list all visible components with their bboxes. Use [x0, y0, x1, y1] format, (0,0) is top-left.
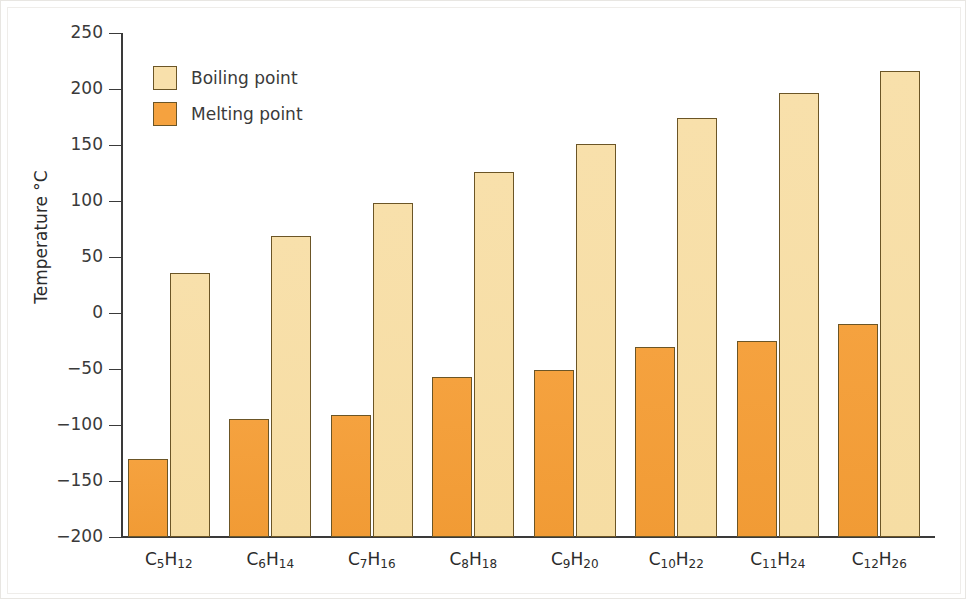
y-tick-label: −150 — [43, 472, 103, 489]
x-tick-label-C11H24: C11H24 — [727, 549, 829, 571]
bar-melting-C10H22[interactable] — [635, 347, 675, 537]
bar-boiling-C12H26[interactable] — [880, 71, 920, 537]
x-tick-label-C8H18: C8H18 — [423, 549, 525, 571]
bar-boiling-C11H24[interactable] — [779, 93, 819, 537]
bar-group — [731, 33, 833, 537]
x-tick-label-C7H16: C7H16 — [321, 549, 423, 571]
bar-boiling-C8H18[interactable] — [474, 172, 514, 537]
legend-label: Boiling point — [191, 70, 298, 87]
x-tick-label-C9H20: C9H20 — [524, 549, 626, 571]
bar-boiling-C9H20[interactable] — [576, 144, 616, 537]
bar-melting-C11H24[interactable] — [737, 341, 777, 537]
y-tick-label: 250 — [43, 24, 103, 41]
bar-melting-C5H12[interactable] — [128, 459, 168, 537]
bar-melting-C8H18[interactable] — [432, 377, 472, 537]
y-tick-label: 0 — [43, 304, 103, 321]
chart-legend: Boiling pointMelting point — [153, 63, 303, 135]
x-tick-label-C12H26: C12H26 — [829, 549, 931, 571]
y-tick-label: −100 — [43, 416, 103, 433]
legend-swatch-melting-icon — [153, 102, 177, 126]
y-tick-label: 50 — [43, 248, 103, 265]
bar-group — [325, 33, 427, 537]
bar-group — [630, 33, 732, 537]
x-tick-label-C5H12: C5H12 — [118, 549, 220, 571]
bar-group — [833, 33, 935, 537]
figure-frame: Temperature °C 250200150100500−50−100−15… — [0, 0, 966, 599]
bar-boiling-C5H12[interactable] — [170, 273, 210, 537]
bar-boiling-C7H16[interactable] — [373, 203, 413, 537]
y-tick-label: 100 — [43, 192, 103, 209]
y-tick-label: −200 — [43, 528, 103, 545]
x-tick-label-C6H14: C6H14 — [220, 549, 322, 571]
legend-item-boiling[interactable]: Boiling point — [153, 63, 303, 93]
bar-boiling-C6H14[interactable] — [271, 236, 311, 537]
bar-melting-C6H14[interactable] — [229, 419, 269, 537]
bar-group — [528, 33, 630, 537]
y-tick-label: 200 — [43, 80, 103, 97]
legend-swatch-boiling-icon — [153, 66, 177, 90]
bar-melting-C9H20[interactable] — [534, 370, 574, 537]
bar-boiling-C10H22[interactable] — [677, 118, 717, 537]
bar-group — [427, 33, 529, 537]
bar-melting-C7H16[interactable] — [331, 415, 371, 537]
x-tick-label-C10H22: C10H22 — [626, 549, 728, 571]
y-tick-label: −50 — [43, 360, 103, 377]
legend-item-melting[interactable]: Melting point — [153, 99, 303, 129]
y-tick-label: 150 — [43, 136, 103, 153]
y-axis-tick-labels: 250200150100500−50−100−150−200 — [41, 1, 103, 599]
legend-label: Melting point — [191, 106, 303, 123]
bar-melting-C12H26[interactable] — [838, 324, 878, 537]
